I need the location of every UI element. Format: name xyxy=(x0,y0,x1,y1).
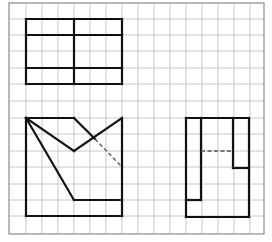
projection-diagram xyxy=(0,0,272,242)
visible-edge xyxy=(74,118,95,139)
hidden-edge xyxy=(95,139,122,167)
visible-edge xyxy=(26,118,74,200)
